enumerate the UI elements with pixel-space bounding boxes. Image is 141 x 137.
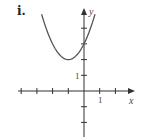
plot-area: x y 1 1: [0, 0, 141, 137]
y-axis-arrow-icon: [81, 8, 87, 15]
y-axis-label: y: [88, 6, 94, 17]
parabola-curve: [42, 14, 95, 59]
x-axis-arrow-icon: [128, 88, 135, 94]
y-tick-label-1: 1: [75, 71, 80, 81]
x-axis-label: x: [128, 95, 134, 106]
x-tick-label-1: 1: [98, 95, 103, 105]
